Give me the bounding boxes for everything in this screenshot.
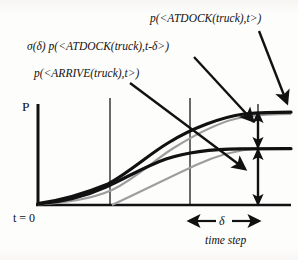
leader-arrow-sigma-shift — [194, 57, 253, 121]
label-delta: δ — [219, 215, 225, 227]
label-arrive-t: p(<ARRIVE(truck),t>) — [34, 68, 139, 80]
leader-arrow-atdock-t — [259, 31, 287, 103]
label-t-zero: t = 0 — [13, 212, 35, 224]
label-atdock-t: p(<ATDOCK(truck),t>) — [150, 13, 261, 25]
label-y-axis: P — [22, 100, 30, 114]
black-curves — [38, 112, 291, 204]
diagram-canvas — [0, 0, 298, 260]
label-sigma-atdock-shift: σ(δ) p(<ATDOCK(truck),t-δ>) — [27, 41, 169, 53]
label-time-step: time step — [205, 235, 246, 247]
